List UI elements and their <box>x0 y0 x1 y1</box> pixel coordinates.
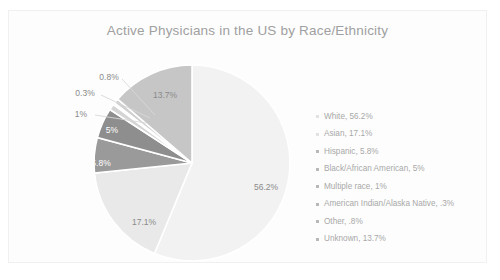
legend-marker-icon <box>316 238 319 241</box>
legend-item-label: White, 56.2% <box>324 113 373 121</box>
legend-marker-icon <box>316 150 319 153</box>
legend-item[interactable]: Unknown, 13.7% <box>316 231 496 249</box>
legend-item-label: Unknown, 13.7% <box>324 235 386 243</box>
legend-item-label: Asian, 17.1% <box>324 130 372 138</box>
chart-card: Active Physicians in the US by Race/Ethn… <box>8 10 487 263</box>
legend-marker-icon <box>316 220 319 223</box>
legend-item-label: Other, .8% <box>324 218 363 226</box>
pie-slice-label: 13.7% <box>153 90 177 100</box>
legend-item[interactable]: Hispanic, 5.8% <box>316 143 496 161</box>
legend-item[interactable]: Other, .8% <box>316 213 496 231</box>
pie-slice-label: 17.1% <box>132 217 156 227</box>
pie-chart-area[interactable]: 13.7%0.8%0.3%1%5%5.8%17.1%56.2% <box>9 11 309 264</box>
legend-marker-icon <box>316 115 319 118</box>
legend-item-label: Black/African American, 5% <box>324 165 425 173</box>
pie-chart-svg[interactable] <box>9 11 309 264</box>
legend-item[interactable]: Asian, 17.1% <box>316 126 496 144</box>
legend-item-label: American Indian/Alaska Native, .3% <box>324 200 454 208</box>
legend-item[interactable]: Multiple race, 1% <box>316 178 496 196</box>
legend-item-label: Multiple race, 1% <box>324 183 387 191</box>
legend-item[interactable]: Black/African American, 5% <box>316 161 496 179</box>
pie-slice-label: 1% <box>75 109 87 119</box>
pie-slice-label: 5.8% <box>91 158 110 168</box>
legend-marker-icon <box>316 133 319 136</box>
chart-legend: White, 56.2%Asian, 17.1%Hispanic, 5.8%Bl… <box>316 108 496 248</box>
legend-marker-icon <box>316 185 319 188</box>
pie-slice-label: 0.3% <box>75 88 94 98</box>
legend-item[interactable]: White, 56.2% <box>316 108 496 126</box>
legend-item-label: Hispanic, 5.8% <box>324 148 379 156</box>
pie-slice-label: 56.2% <box>254 182 278 192</box>
legend-marker-icon <box>316 168 319 171</box>
pie-slice-label: 0.8% <box>99 72 118 82</box>
legend-item[interactable]: American Indian/Alaska Native, .3% <box>316 196 496 214</box>
pie-slice-label: 5% <box>106 125 118 135</box>
legend-marker-icon <box>316 203 319 206</box>
